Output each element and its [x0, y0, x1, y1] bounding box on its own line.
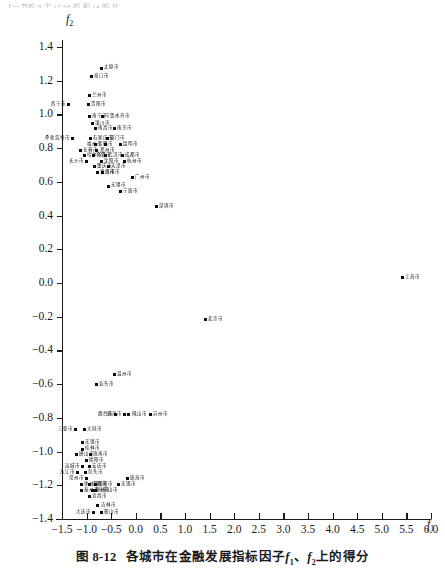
y-tick-label: 1.2 [19, 75, 53, 87]
data-point [74, 428, 77, 431]
data-point [83, 428, 86, 431]
data-point [67, 103, 70, 106]
data-point [104, 143, 107, 146]
y-tick [57, 216, 63, 217]
data-point [113, 373, 116, 376]
y-tick-label: 0.4 [19, 210, 53, 222]
data-point [121, 154, 124, 157]
data-point-label: 宁波市 [123, 189, 138, 193]
y-tick [57, 249, 63, 250]
y-tick-label: −0.6 [19, 378, 53, 390]
data-point [91, 122, 94, 125]
data-point-label: 深圳市 [159, 204, 174, 208]
x-tick [357, 513, 358, 519]
y-tick-label: 0.6 [19, 176, 53, 188]
data-point-label: 马鞍山市 [98, 488, 117, 492]
data-point-label: 鞍山市 [104, 510, 119, 514]
data-point [95, 383, 98, 386]
data-point [119, 143, 122, 146]
data-point-label: 南京市 [117, 126, 132, 130]
data-point [79, 149, 82, 152]
y-tick-label: −1.4 [19, 513, 53, 525]
data-point-label: 苏州市 [153, 412, 168, 416]
data-point [80, 489, 83, 492]
data-point [123, 413, 126, 416]
data-point [96, 171, 99, 174]
y-tick-label: −0.4 [19, 344, 53, 356]
data-point [81, 441, 84, 444]
y-axis-title: f2 [66, 12, 73, 28]
data-point [94, 127, 97, 130]
x-tick [136, 513, 137, 519]
x-tick [185, 513, 186, 519]
data-point-label: 汕头市 [99, 382, 114, 386]
y-tick-label: 0.2 [19, 243, 53, 255]
data-point-label: 安庆市 [92, 464, 107, 468]
x-tick [431, 513, 432, 519]
data-point [90, 75, 93, 78]
y-tick-label: 1.0 [19, 108, 53, 120]
scatter-plot: f2 f1 −1.4−1.2−1.0−0.8−0.6−0.4−0.20.00.2… [0, 0, 445, 520]
data-point [100, 67, 103, 70]
y-tick-label: 0.8 [19, 142, 53, 154]
data-point [87, 103, 90, 106]
y-tick [57, 485, 63, 486]
data-point-label: 杭州市 [127, 159, 142, 163]
y-tick [57, 418, 63, 419]
figure-number: 图 8-12 [76, 550, 117, 564]
y-tick [57, 452, 63, 453]
data-point-label: 包头市 [88, 470, 103, 474]
y-tick [57, 182, 63, 183]
y-tick-label: −0.8 [19, 412, 53, 424]
data-point [81, 448, 84, 451]
figure-caption: 图 8-12各城市在金融发展指标因子f1、f2上的得分 [0, 546, 445, 567]
data-point-label: 佛山市 [132, 412, 147, 416]
data-point-label: 上海市 [405, 275, 420, 279]
data-point-label: 天津市 [111, 164, 126, 168]
data-point-label: 常州市 [69, 476, 84, 480]
x-tick [308, 513, 309, 519]
y-tick [57, 47, 63, 48]
x-axis-line [56, 519, 431, 520]
x-tick-label: 6.0 [411, 524, 445, 536]
y-tick [57, 114, 63, 115]
data-point [88, 483, 91, 486]
data-point [88, 94, 91, 97]
data-point-label: 九江市 [60, 470, 75, 474]
data-point [84, 471, 87, 474]
data-point [119, 190, 122, 193]
data-point-label: 南昌市 [98, 126, 113, 130]
y-tick-label: −1.2 [19, 479, 53, 491]
data-point-label: 珠海市 [130, 476, 145, 480]
caption-text-a: 各城市在金融发展指标因子 [126, 550, 286, 564]
data-point [101, 171, 104, 174]
data-point [88, 115, 91, 118]
x-tick [406, 513, 407, 519]
data-point-label: 吉林市 [101, 503, 116, 507]
data-point-label: 呼和浩特市 [45, 136, 69, 140]
data-point-label: 福州市 [88, 142, 103, 146]
data-point-label: 海口市 [94, 74, 109, 78]
data-point-label: 广州市 [136, 175, 151, 179]
data-point-label: 绵阳市 [98, 482, 113, 486]
data-point [204, 318, 207, 321]
data-point-label: 西宁市 [51, 102, 66, 106]
data-point-label: 运城市 [65, 464, 80, 468]
y-tick [57, 148, 63, 149]
data-point [81, 465, 84, 468]
caption-separator: 、 [294, 550, 307, 564]
data-point [96, 504, 99, 507]
data-point [88, 495, 91, 498]
data-point [92, 154, 95, 157]
data-point [104, 154, 107, 157]
data-point [107, 185, 110, 188]
y-tick [57, 519, 63, 520]
data-point-label: 太原市 [104, 65, 119, 69]
y-tick [57, 384, 63, 385]
y-tick-label: 1.4 [19, 41, 53, 53]
data-point [92, 511, 95, 514]
data-point-label: 宜昌市 [92, 494, 107, 498]
data-point-label: 南宁市 [92, 114, 107, 118]
x-tick [333, 513, 334, 519]
data-point [100, 511, 103, 514]
